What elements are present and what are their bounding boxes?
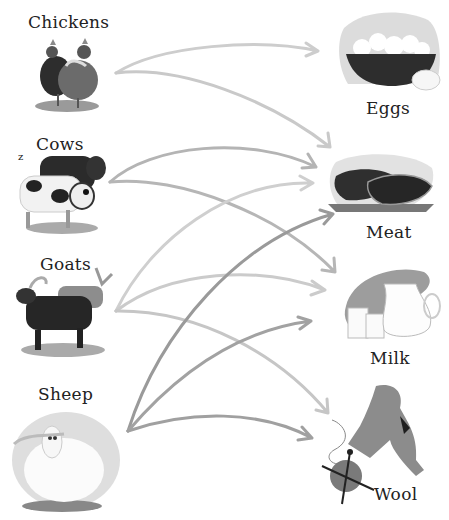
label-milk: Milk — [370, 348, 410, 368]
cows-illustration: z — [12, 148, 112, 236]
label-meat: Meat — [366, 222, 412, 242]
svg-text:z: z — [18, 151, 23, 162]
label-sheep: Sheep — [38, 384, 93, 404]
label-chickens: Chickens — [28, 12, 109, 32]
chickens-illustration — [22, 36, 112, 114]
label-eggs: Eggs — [366, 98, 410, 118]
goats-illustration — [8, 262, 118, 360]
sheep-illustration — [4, 406, 120, 514]
arrow-cows-meat — [110, 148, 316, 182]
arrow-sheep-milk — [128, 317, 311, 431]
arrow-chickens-meat — [116, 72, 330, 147]
eggs-illustration — [332, 8, 444, 92]
label-wool: Wool — [374, 484, 417, 504]
arrow-goats-meat — [116, 176, 313, 311]
arrow-chickens-eggs — [116, 43, 318, 73]
arrow-goats-wool — [116, 311, 328, 413]
meat-illustration — [322, 146, 440, 218]
arrow-sheep-wool — [128, 416, 312, 440]
milk-illustration — [340, 264, 444, 342]
